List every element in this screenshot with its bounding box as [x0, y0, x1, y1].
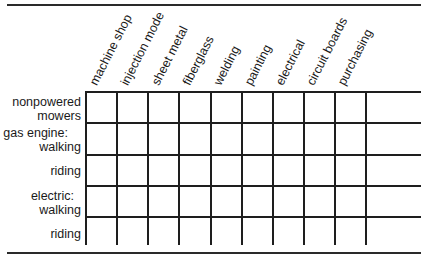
row-label-line1: electric:	[31, 189, 74, 203]
row-label-nonpowered-mowers: nonpowered mowers	[12, 95, 81, 123]
grid-hline	[85, 122, 421, 124]
row-label-line2: walking	[3, 140, 81, 154]
grid-hline	[85, 154, 421, 156]
row-label-gas-engine-walking: gas engine: walking	[3, 126, 81, 154]
row-label-line2: riding	[50, 164, 81, 178]
grid-vline	[365, 91, 367, 245]
grid-vline	[334, 91, 336, 245]
column-header-painting: painting	[243, 43, 274, 88]
column-header-welding: welding	[212, 44, 242, 87]
grid-vline	[178, 91, 180, 245]
column-header-electrical: electrical	[274, 38, 308, 88]
grid-vline	[241, 91, 243, 245]
grid-vline	[303, 91, 305, 245]
row-label-line2: mowers	[12, 109, 81, 123]
grid-vline	[85, 91, 87, 245]
row-label-electric-walking: electric: walking	[31, 189, 81, 217]
row-label-line1: nonpowered	[12, 95, 81, 109]
row-label-line2: walking	[31, 203, 81, 217]
grid-vline	[210, 91, 212, 245]
grid-hline	[85, 216, 421, 218]
bottom-rule	[7, 252, 421, 254]
grid-vline	[116, 91, 118, 245]
grid-vline	[272, 91, 274, 245]
row-label-line2: riding	[50, 227, 81, 241]
row-label-line1: gas engine:	[3, 126, 68, 140]
row-label-gas-engine-riding: riding	[50, 164, 81, 178]
grid-hline	[85, 91, 421, 93]
grid-vline	[147, 91, 149, 245]
grid-hline	[85, 185, 421, 187]
top-rule	[7, 4, 421, 6]
row-label-electric-riding: riding	[50, 227, 81, 241]
